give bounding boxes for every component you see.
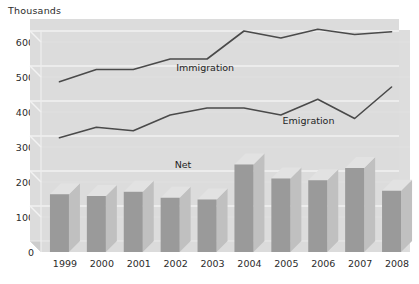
- bar-1999: [50, 183, 80, 252]
- x-tick-2007: 2007: [348, 258, 372, 269]
- x-tick-1999: 1999: [53, 258, 77, 269]
- series-label-net: Net: [175, 159, 192, 170]
- x-tick-2005: 2005: [274, 258, 298, 269]
- series-label-immigration: Immigration: [176, 62, 234, 73]
- x-tick-2001: 2001: [127, 258, 151, 269]
- bar-2005: [271, 168, 301, 253]
- bar-2003: [198, 189, 228, 253]
- chart-container: Thousands 0100200300400500600 1999200020…: [0, 0, 419, 284]
- bar-2007: [345, 157, 375, 252]
- bar-2002: [161, 187, 191, 252]
- bar-2000: [87, 185, 117, 252]
- bar-2001: [124, 181, 154, 252]
- x-tick-2002: 2002: [164, 258, 188, 269]
- x-tick-2004: 2004: [237, 258, 261, 269]
- bar-2008: [382, 180, 412, 252]
- bar-2004: [234, 154, 264, 253]
- chart-plot-area: [0, 0, 419, 284]
- x-tick-2006: 2006: [311, 258, 335, 269]
- bar-2006: [308, 169, 338, 252]
- x-tick-2008: 2008: [385, 258, 409, 269]
- x-tick-2003: 2003: [200, 258, 224, 269]
- x-tick-2000: 2000: [90, 258, 114, 269]
- series-label-emigration: Emigration: [283, 115, 335, 126]
